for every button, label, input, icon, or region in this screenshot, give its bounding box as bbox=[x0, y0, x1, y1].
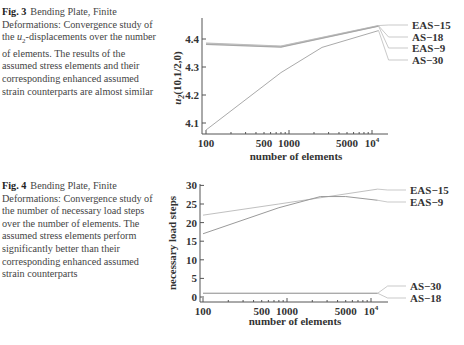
y-tick-label: 5 bbox=[192, 272, 198, 284]
y-tick-label: 20 bbox=[186, 217, 198, 229]
legend-label: EAS−9 bbox=[410, 196, 444, 208]
chart-fig4-series bbox=[203, 189, 378, 293]
chart-fig4-ylabel: necessary load steps bbox=[166, 195, 178, 290]
legend-label: EAS−15 bbox=[410, 184, 449, 196]
chart-fig4: 051015202530 10050010005000104 EAS−15EAS… bbox=[0, 0, 464, 345]
legend-label: AS−30 bbox=[410, 280, 442, 292]
y-tick-label: 25 bbox=[186, 198, 198, 210]
y-tick-label: 30 bbox=[186, 179, 198, 191]
series-line-eas-15 bbox=[203, 189, 378, 215]
x-tick-label: 104 bbox=[364, 304, 379, 317]
y-tick-label: 15 bbox=[186, 235, 198, 247]
y-tick-label: 10 bbox=[186, 254, 198, 266]
y-tick-label: 0 bbox=[192, 291, 198, 303]
chart-fig4-yticks: 051015202530 bbox=[186, 179, 204, 303]
x-tick-label: 100 bbox=[195, 305, 212, 317]
chart-fig4-legend: EAS−15EAS−9AS−30AS−18 bbox=[378, 184, 450, 304]
chart-fig4-xlabel: number of elements bbox=[249, 315, 342, 327]
legend-label: AS−18 bbox=[410, 292, 442, 304]
